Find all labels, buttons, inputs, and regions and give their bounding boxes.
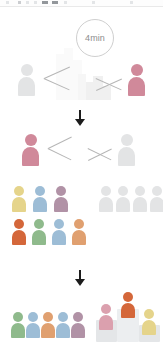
person-head-icon: [13, 312, 23, 322]
person-body-icon: [142, 320, 156, 335]
person-body-icon: [99, 315, 113, 330]
person-body-icon: [56, 323, 70, 338]
person-head-icon: [123, 292, 133, 302]
finalist-blue: [56, 312, 70, 338]
finalist-blue: [26, 312, 40, 338]
person-head-icon: [101, 304, 111, 314]
person-body-icon: [11, 323, 25, 338]
third-place-yellow: [142, 309, 156, 335]
finalist-mauve: [71, 312, 85, 338]
finalist-orange: [41, 312, 55, 338]
person-body-icon: [121, 303, 135, 318]
person-head-icon: [28, 312, 38, 322]
person-head-icon: [144, 309, 154, 319]
person-head-icon: [73, 312, 83, 322]
person-head-icon: [58, 312, 68, 322]
infographic-canvas: 4min: [0, 0, 163, 350]
person-body-icon: [41, 323, 55, 338]
person-body-icon: [71, 323, 85, 338]
champion-orange: [121, 292, 135, 318]
finalist-green: [11, 312, 25, 338]
winners-podium: [96, 290, 160, 342]
person-body-icon: [26, 323, 40, 338]
runner-up-pink: [99, 304, 113, 330]
person-head-icon: [43, 312, 53, 322]
